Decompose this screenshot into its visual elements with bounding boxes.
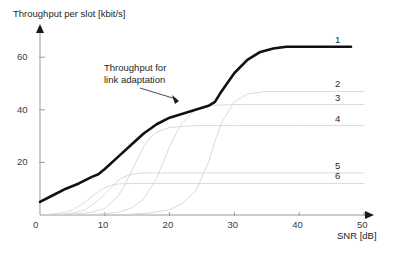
annotation-line-1: Throughput for — [104, 62, 166, 74]
annotation-line-2: link adaptation — [104, 74, 166, 86]
curve-label-5: 5 — [335, 161, 340, 171]
axes-layer — [36, 24, 374, 219]
y-tick-label-60: 60 — [17, 52, 28, 62]
annotation-label: Throughput for link adaptation — [104, 62, 166, 86]
curve-label-1: 1 — [335, 35, 340, 45]
y-tick-label-20: 20 — [17, 157, 28, 167]
annotation-leader — [140, 88, 179, 104]
y-tick-label-40: 40 — [17, 105, 28, 115]
x-tick-label-40: 40 — [292, 220, 303, 230]
curve-label-3: 3 — [335, 93, 340, 103]
x-tick-label-20: 20 — [163, 220, 174, 230]
curve-label-2: 2 — [335, 79, 340, 89]
curves-layer — [40, 47, 364, 215]
x-tick-label-0: 0 — [33, 220, 38, 230]
x-tick-label-10: 10 — [98, 220, 109, 230]
chart-plot-area — [0, 0, 406, 255]
x-tick-label-30: 30 — [227, 220, 238, 230]
x-axis-title: SNR [dB] — [337, 231, 377, 241]
curve-label-6: 6 — [335, 171, 340, 181]
chart-container: Throughput per slot [kbit/s] SNR [dB] Th… — [0, 0, 406, 255]
y-axis-title: Throughput per slot [kbit/s] — [13, 9, 125, 19]
x-tick-label-50: 50 — [357, 220, 368, 230]
curve-label-4: 4 — [335, 114, 340, 124]
